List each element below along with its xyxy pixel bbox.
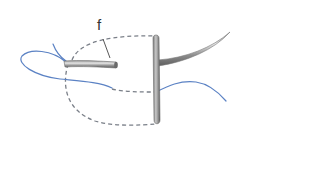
leader-line (103, 39, 110, 58)
label-f: f (97, 17, 101, 32)
diagram-canvas (0, 0, 310, 184)
vertical-bar (153, 35, 160, 124)
curved-needle (158, 32, 230, 66)
short-needle (64, 61, 118, 69)
